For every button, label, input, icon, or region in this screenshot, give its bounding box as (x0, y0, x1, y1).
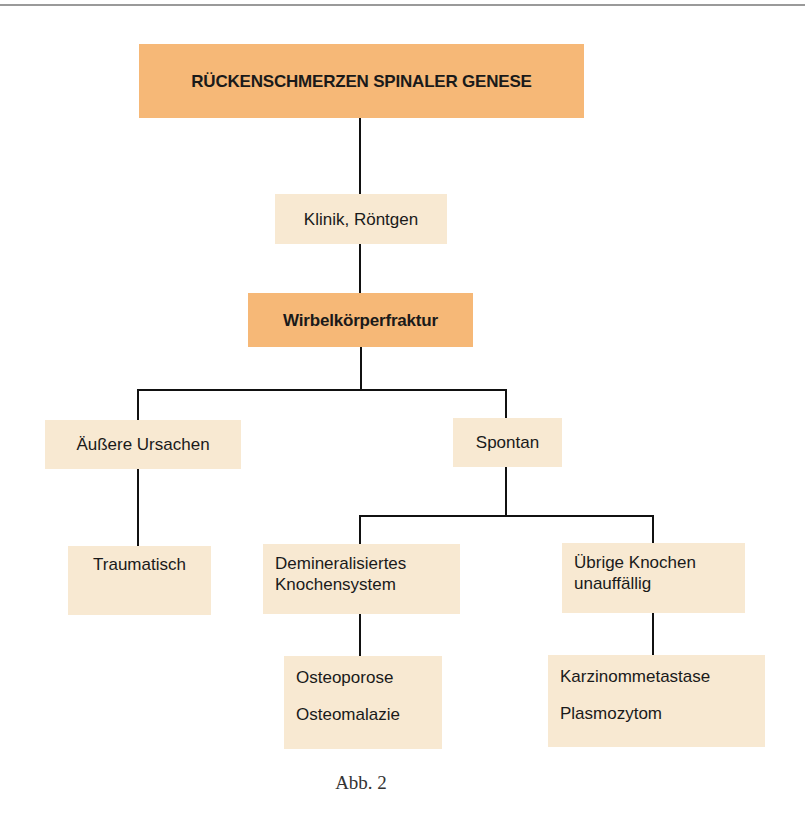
connector-spontaneous-branch (505, 467, 507, 516)
node-diagnostics-label: Klinik, Röntgen (304, 209, 418, 230)
connector-demineralized-causes (359, 614, 361, 656)
connector-branch-level2 (359, 515, 654, 517)
connector-branch-other-bones (652, 515, 654, 543)
connector-branch-level1 (137, 389, 507, 391)
node-root: RÜCKENSCHMERZEN SPINALER GENESE (139, 44, 584, 118)
node-spontaneous-label: Spontan (476, 432, 539, 453)
node-demineralized: Demineralisiertes Knochensystem (263, 544, 460, 614)
connector-root-diagnostics (359, 118, 361, 194)
node-traumatic-label: Traumatisch (93, 554, 186, 575)
node-traumatic: Traumatisch (68, 546, 211, 615)
connector-external-traumatic (137, 469, 139, 546)
connector-other-causes (652, 613, 654, 655)
connector-branch-spontaneous (505, 389, 507, 418)
node-diagnostics: Klinik, Röntgen (275, 194, 447, 244)
connector-diagnostics-fracture (359, 244, 361, 293)
node-plasmozytom-label: Plasmozytom (560, 703, 755, 724)
connector-fracture-branch (360, 347, 362, 391)
node-other-bones: Übrige Knochen unauffällig (562, 543, 745, 613)
node-root-label: RÜCKENSCHMERZEN SPINALER GENESE (191, 71, 531, 92)
node-fracture-label: Wirbelkörperfraktur (283, 310, 438, 331)
node-other-bones-line2: unauffällig (574, 573, 735, 594)
node-external-label: Äußere Ursachen (76, 434, 209, 455)
node-other-bones-line1: Übrige Knochen (574, 552, 735, 573)
top-rule (0, 4, 805, 6)
node-demineralized-line2: Knochensystem (275, 574, 450, 595)
node-external: Äußere Ursachen (45, 420, 241, 469)
node-spontaneous: Spontan (453, 418, 562, 467)
node-osteomalazie-label: Osteomalazie (296, 704, 432, 725)
connector-branch-demineralized (359, 515, 361, 544)
figure-caption: Abb. 2 (0, 772, 722, 794)
node-fracture: Wirbelkörperfraktur (248, 293, 473, 347)
node-demineralized-line1: Demineralisiertes (275, 553, 450, 574)
node-osteoporose-label: Osteoporose (296, 667, 432, 688)
node-karzinommetastase-label: Karzinommetastase (560, 666, 755, 687)
node-demineralized-causes: Osteoporose Osteomalazie (284, 656, 442, 749)
node-other-causes: Karzinommetastase Plasmozytom (548, 655, 765, 747)
connector-branch-external (137, 389, 139, 420)
